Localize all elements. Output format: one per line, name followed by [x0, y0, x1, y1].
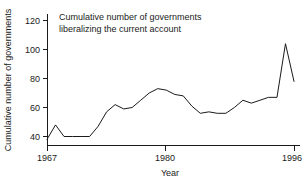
x-tick-label-1980: 1980: [155, 153, 175, 163]
y-tick-label-40: 40: [30, 132, 40, 142]
chart-annotation-line-1: Cumulative number of governments: [59, 12, 202, 22]
y-tick-label-100: 100: [25, 45, 40, 55]
y-tick-label-80: 80: [30, 74, 40, 84]
x-tick-label-1967: 1967: [37, 153, 57, 163]
line-chart: 120 100 80 60 40 1967 1980 1996 Year Cum…: [0, 0, 308, 183]
x-axis-title: Year: [161, 168, 179, 178]
chart-annotation-line-2: liberalizing the current account: [59, 24, 182, 34]
data-series-line: [47, 44, 294, 140]
y-tick-label-120: 120: [25, 16, 40, 26]
y-axis-title: Cumulative number of governments: [3, 8, 13, 151]
y-tick-label-60: 60: [30, 103, 40, 113]
x-tick-marks: [48, 146, 295, 151]
x-tick-label-1996: 1996: [282, 153, 302, 163]
y-tick-marks: [43, 21, 47, 137]
chart-figure: 120 100 80 60 40 1967 1980 1996 Year Cum…: [0, 0, 308, 183]
